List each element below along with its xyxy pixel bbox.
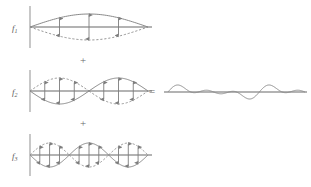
plus-sign-2: +	[80, 117, 86, 129]
harmonic-superposition-diagram: f1f2f3++=	[0, 0, 311, 187]
panel-f1: f1	[12, 6, 152, 48]
panel-result	[164, 85, 307, 99]
figure-canvas: f1f2f3++=	[0, 0, 311, 187]
label-f2-subscript: 2	[15, 92, 18, 98]
panel-f2: f2	[12, 70, 152, 112]
label-f3: f3	[12, 151, 18, 162]
panel-f3: f3	[12, 134, 152, 176]
label-f1: f1	[12, 23, 18, 34]
label-f1-subscript: 1	[15, 28, 18, 34]
label-f2: f2	[12, 87, 18, 98]
plus-sign-1: +	[80, 54, 86, 66]
equals-sign: =	[149, 85, 155, 97]
label-f3-subscript: 3	[14, 156, 18, 162]
